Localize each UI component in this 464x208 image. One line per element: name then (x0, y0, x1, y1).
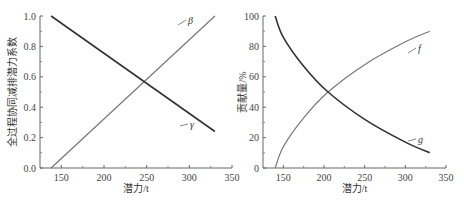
charts-canvas: 1502002503003500.00.20.40.60.81.0潜力/t全过程… (0, 0, 464, 208)
y-tick-label: 20 (249, 132, 259, 143)
series-f-line (275, 31, 430, 168)
y-axis-title: 全过程协同减排潜力系数 (6, 37, 18, 147)
series-β-line (51, 16, 215, 168)
x-tick-label: 300 (398, 172, 413, 183)
y-tick-label: 80 (249, 41, 259, 52)
x-tick-label: 250 (357, 172, 372, 183)
y-tick-label: 1.0 (24, 11, 37, 22)
y-tick-label: 0.8 (24, 41, 37, 52)
y-tick-label: 40 (249, 102, 259, 113)
y-tick-label: 0.0 (24, 163, 37, 174)
x-tick-label: 300 (182, 172, 197, 183)
y-axis-title: 贡献量/% (236, 71, 248, 112)
series-γ-line (51, 16, 215, 132)
series-label: γ (190, 119, 195, 130)
y-tick-label: 0.2 (24, 132, 37, 143)
right-chart: 150200250300350020406080100潜力/t贡献量/%fg (236, 11, 454, 195)
x-axis-title: 潜力/t (342, 182, 368, 194)
x-tick-label: 150 (54, 172, 69, 183)
series-label: β (187, 15, 193, 26)
y-tick-label: 100 (244, 11, 259, 22)
y-tick-label: 60 (249, 71, 259, 82)
x-axis-title: 潜力/t (123, 182, 149, 194)
series-g-line (275, 16, 430, 153)
x-tick-label: 350 (225, 172, 240, 183)
x-tick-label: 200 (97, 172, 112, 183)
y-tick-label: 0.6 (24, 71, 37, 82)
x-tick-label: 350 (439, 172, 454, 183)
series-label: f (418, 43, 422, 54)
x-tick-label: 250 (139, 172, 154, 183)
x-tick-label: 150 (276, 172, 291, 183)
series-label: g (418, 134, 423, 145)
x-tick-label: 200 (317, 172, 332, 183)
left-chart: 1502002503003500.00.20.40.60.81.0潜力/t全过程… (6, 11, 240, 195)
y-tick-label: 0.4 (24, 102, 37, 113)
y-tick-label: 0 (254, 163, 259, 174)
